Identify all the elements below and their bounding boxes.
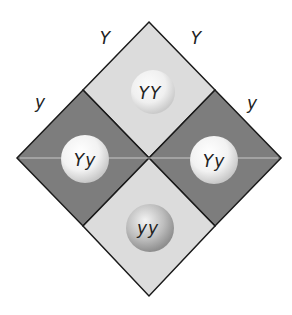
punnett-diamond [0,0,292,315]
allele-top-left: Y [100,28,110,48]
allele-top-right: Y [191,28,201,48]
genotype-top: YY [139,83,162,103]
genotype-left: Yy [74,150,96,170]
genotype-right: Yy [203,151,225,171]
allele-right: y [247,93,257,113]
genotype-bottom: yy [137,218,159,238]
allele-left: y [35,92,45,112]
